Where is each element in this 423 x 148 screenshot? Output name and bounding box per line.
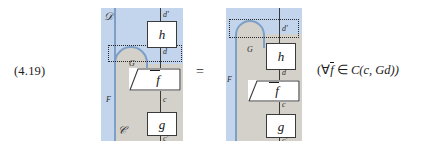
- h-box: h: [266, 43, 296, 70]
- g-box: g: [266, 114, 296, 138]
- fbar-box: f: [129, 68, 181, 91]
- side-condition-fbar: f: [330, 63, 333, 78]
- hom-set-arguments: (c, Gd)): [359, 63, 399, 77]
- g-box: g: [147, 112, 177, 136]
- wire-label-c-prime: c': [282, 137, 287, 141]
- wire-c: [160, 91, 161, 113]
- functor-boundary-line: [235, 34, 237, 141]
- h-box-label: h: [159, 28, 166, 41]
- wire-label-d: d: [163, 48, 167, 56]
- cap-label-G: G: [247, 46, 253, 54]
- figure-canvas: (4.19) h f: [0, 0, 423, 148]
- fbar-box-label: f: [150, 72, 160, 88]
- g-box-label: g: [278, 120, 285, 133]
- category-symbol-C: C: [351, 63, 359, 77]
- left-string-diagram: h f g 𝒟 𝒞 F G d' d c c': [101, 8, 183, 141]
- wire-label-c: c: [163, 96, 167, 104]
- wire-label-d: d: [282, 69, 286, 77]
- wire-label-c: c: [282, 101, 286, 109]
- wire-d-prime: [160, 8, 161, 21]
- cap-label-G: G: [129, 60, 135, 68]
- wire-label-d-prime: d': [163, 11, 169, 19]
- element-of-symbol: ∈: [337, 63, 348, 77]
- g-box-label: g: [159, 118, 166, 131]
- equation-number: (4.19): [14, 64, 45, 79]
- equals-sign: =: [196, 64, 204, 80]
- wire-label-c-prime: c': [163, 135, 168, 141]
- wire-label-d-prime: d': [282, 25, 288, 33]
- forall-symbol: ∀: [321, 63, 330, 77]
- outer-region-label: 𝒟: [104, 11, 113, 22]
- inner-region-label: 𝒞: [118, 125, 126, 136]
- fbar-box: f: [248, 80, 300, 102]
- dotted-highlight-box: [229, 19, 299, 38]
- fbar-box-label: f: [269, 83, 279, 99]
- functor-boundary-label: F: [227, 76, 232, 84]
- side-condition: (∀f ∈ C(c, Gd)): [317, 62, 399, 78]
- h-box-label: h: [278, 50, 285, 63]
- functor-boundary-line: [114, 8, 116, 141]
- functor-boundary-label: F: [106, 96, 111, 104]
- right-string-diagram: h f g F G d' d c c': [226, 8, 302, 141]
- h-box: h: [147, 21, 177, 48]
